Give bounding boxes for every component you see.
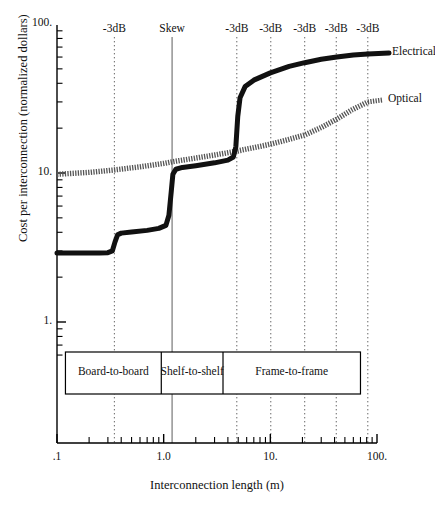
marker-label-7: -3dB <box>356 22 379 34</box>
marker-label-skew: Skew <box>159 22 185 34</box>
marker-label-6: -3dB <box>325 22 348 34</box>
marker-label-4: -3dB <box>259 22 282 34</box>
marker-label-1: -3dB <box>103 22 126 34</box>
x-tick-label-0.1: .1 <box>53 450 62 462</box>
series-label-optical: Optical <box>388 92 422 104</box>
y-tick-label-1: 1. <box>43 314 52 326</box>
y-axis-title: Cost per interconnection (normalized dol… <box>16 14 31 242</box>
x-tick-label-10: 10. <box>263 450 277 462</box>
x-tick-label-1: 1.0 <box>156 450 170 462</box>
series-label-electrical: Electrical <box>392 45 435 57</box>
data-series <box>57 53 389 253</box>
marker-label-3: -3dB <box>225 22 248 34</box>
segment-label-frame-to-frame: Frame-to-frame <box>255 365 328 377</box>
segment-label-board-to-board: Board-to-board <box>78 365 149 377</box>
chart-canvas <box>0 0 435 507</box>
y-tick-label-100: 100. <box>32 16 52 28</box>
x-axis-title: Interconnection length (m) <box>150 478 284 493</box>
segment-label-shelf-to-shelf: Shelf-to-shelf <box>161 365 224 377</box>
y-tick-label-10: 10. <box>38 165 52 177</box>
chart-figure: -3dB Skew -3dB -3dB -3dB -3dB -3dB Elect… <box>0 0 435 507</box>
marker-label-5: -3dB <box>293 22 316 34</box>
x-tick-label-100: 100. <box>367 450 387 462</box>
